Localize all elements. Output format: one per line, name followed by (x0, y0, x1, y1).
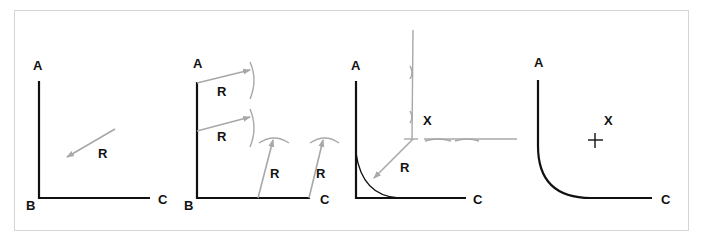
panel-2: A B C R R R R (184, 56, 339, 213)
label-c: C (158, 192, 168, 207)
panel-4: A C X (534, 55, 671, 207)
corner-lines (197, 82, 310, 198)
label-a: A (351, 58, 361, 73)
arc-mark-h2 (455, 139, 479, 141)
label-r2: R (217, 129, 227, 144)
offset-line-vertical (412, 30, 413, 140)
panel-1: A B C R (26, 58, 168, 213)
arc-3 (259, 138, 289, 143)
label-b: B (184, 198, 193, 213)
label-r1: R (217, 84, 227, 99)
label-c: C (320, 192, 330, 207)
arc-mark-h1 (425, 139, 451, 141)
radius-arrow (67, 129, 115, 157)
label-c: C (661, 192, 671, 207)
label-r4: R (316, 166, 326, 181)
arc-4 (310, 138, 339, 143)
arc-mark-v1 (410, 66, 412, 79)
label-b: B (26, 198, 35, 213)
corner-lines (39, 81, 150, 198)
radius-arrow-1 (197, 70, 250, 83)
label-x: X (604, 113, 613, 128)
arc-mark-v2 (410, 111, 412, 123)
center-point-cross-icon (588, 133, 603, 148)
label-a: A (193, 56, 203, 71)
label-r: R (98, 146, 108, 161)
label-c: C (473, 192, 483, 207)
arc-1 (250, 62, 254, 99)
label-r: R (400, 160, 410, 175)
label-x: X (423, 113, 432, 128)
arc-2 (250, 109, 254, 147)
label-a: A (534, 55, 544, 70)
fillet-construction-diagram: A B C R A B C R R R R A C X R (0, 0, 705, 245)
label-r3: R (270, 166, 280, 181)
label-a: A (33, 58, 43, 73)
panel-3: A C X R (351, 30, 517, 207)
